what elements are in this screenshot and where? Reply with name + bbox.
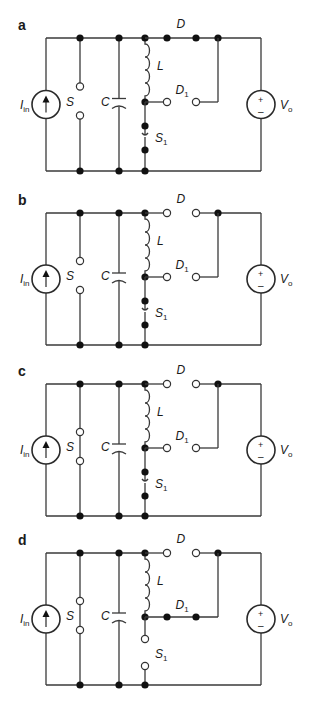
voltage-source-label-subscript: o [288,279,293,288]
voltage-minus-sign: – [258,620,264,631]
switch-S1-label-subscript: 1 [163,138,168,147]
open-terminal [192,209,199,216]
diode-D-label: D [177,363,186,377]
junction-node [115,549,122,556]
circuit-panel-a: aIin+–VoSCLS1DD1 [18,17,293,175]
inductor-label-text: L [157,574,164,588]
diode-D-label-text: D [177,363,186,377]
inductor-label: L [157,234,164,248]
switch-S1-label-text: S [155,306,163,320]
capacitor-label-text: C [101,269,110,283]
current-source-label: Iin [20,272,30,288]
switch-S-label: S [66,609,74,623]
diode-D-label: D [177,532,186,546]
junction-node [141,341,148,348]
circuit-panel-c: cIin+–VoSCLS1DD1 [18,363,293,520]
junction-node [76,681,83,688]
voltage-source-label: Vo [280,612,293,628]
switch-S-label: S [66,95,74,109]
diode-D-label: D [177,17,186,31]
switch-S-label-text: S [66,95,74,109]
inductor-label-text: L [157,234,164,248]
junction-node [141,512,148,519]
voltage-plus-sign: + [258,609,263,619]
open-terminal [192,549,199,556]
junction-node [115,167,122,174]
diode-D1-label-text: D [176,598,185,612]
junction-node [115,209,122,216]
switch-S-label: S [66,269,74,283]
current-arrow-up-icon [43,441,50,448]
voltage-plus-sign: + [258,269,263,279]
junction-node [141,122,148,129]
panel-label-c: c [18,363,26,379]
switch-S1-label: S1 [155,131,168,147]
inductor-coil [145,384,150,448]
switch-S1-closed-symbol [142,126,148,150]
diode-D-label: D [177,192,186,206]
junction-node [141,468,148,475]
junction-node [76,34,83,41]
panel-label-b: b [18,192,27,208]
diode-D1-label-text: D [176,429,185,443]
junction-node [76,341,83,348]
circuit-diagram-canvas: aIin+–VoSCLS1DD1bIin+–VoSCLS1DD1cIin+–Vo… [0,0,309,705]
current-source-label: Iin [20,443,30,459]
open-terminal [192,98,199,105]
open-terminal [76,257,83,264]
switch-S-label: S [66,440,74,454]
diode-D1-label-text: D [176,258,185,272]
junction-node [192,613,199,620]
diode-D-label-text: D [177,532,186,546]
open-terminal [163,444,170,451]
current-source-label: Iin [20,612,30,628]
open-terminal [163,273,170,280]
junction-node [115,341,122,348]
open-terminal [163,549,170,556]
capacitor-label: C [101,609,110,623]
junction-node [76,512,83,519]
junction-node [141,146,148,153]
voltage-source-label-subscript: o [288,619,293,628]
diode-D1-label: D1 [176,258,190,274]
inductor-label: L [157,59,164,73]
switch-S-label-text: S [66,440,74,454]
diode-D1-label: D1 [176,83,190,99]
current-source-label-subscript: in [23,450,29,459]
junction-node [115,380,122,387]
switch-S1-label-subscript: 1 [163,654,168,663]
junction-node [115,512,122,519]
capacitor-label: C [101,269,110,283]
inductor-label: L [157,574,164,588]
panel-label-a: a [18,17,26,33]
switch-S1-label-text: S [155,131,163,145]
junction-node [76,549,83,556]
switch-S-label-text: S [66,609,74,623]
open-terminal [76,597,83,604]
inductor-label: L [157,405,164,419]
switch-S1-closed-symbol [142,472,148,496]
switch-S1-label-subscript: 1 [163,484,168,493]
junction-node [76,209,83,216]
switch-S1-label: S1 [155,306,168,322]
panel-label-d: d [18,532,27,548]
junction-node [192,34,199,41]
circuit-panel-d: dIin+–VoSCLS1DD1 [18,532,293,689]
capacitor-label-text: C [101,95,110,109]
diode-D1-label: D1 [176,598,190,614]
current-source-label-subscript: in [23,619,29,628]
voltage-minus-sign: – [258,106,264,117]
current-arrow-up-icon [43,270,50,277]
diode-D-label-text: D [177,17,186,31]
voltage-source-label: Vo [280,272,293,288]
open-terminal [76,83,83,90]
open-terminal [141,635,148,642]
capacitor-label: C [101,95,110,109]
switch-S1-closed-symbol [142,301,148,325]
voltage-minus-sign: – [258,451,264,462]
switch-S-label-text: S [66,269,74,283]
switch-S1-label-subscript: 1 [163,313,168,322]
current-arrow-up-icon [43,96,50,103]
circuit-figure: aIin+–VoSCLS1DD1bIin+–VoSCLS1DD1cIin+–Vo… [0,0,309,705]
junction-node [163,613,170,620]
